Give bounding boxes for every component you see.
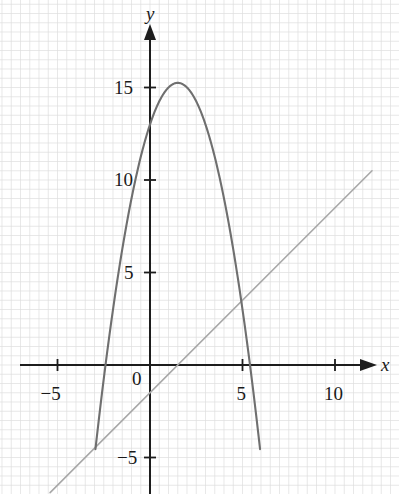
line-curve [50, 171, 372, 493]
y-tick-label-minus5: −5 [117, 448, 137, 467]
y-tick-label-5: 5 [124, 263, 134, 282]
x-axis-label: x [381, 355, 389, 374]
coordinate-plane [0, 0, 399, 494]
graph-figure: x y 0 −5 5 10 5 10 15 −5 [0, 0, 399, 494]
y-tick-label-10: 10 [114, 170, 133, 189]
grid-lines [0, 0, 399, 494]
x-tick-label-5: 5 [237, 384, 247, 403]
x-tick-label-minus5: −5 [41, 384, 61, 403]
y-tick-label-15: 15 [114, 78, 133, 97]
axis-lines [20, 24, 377, 494]
origin-tick-label: 0 [132, 369, 142, 388]
y-axis-label: y [146, 4, 154, 23]
x-tick-label-10: 10 [324, 384, 343, 403]
